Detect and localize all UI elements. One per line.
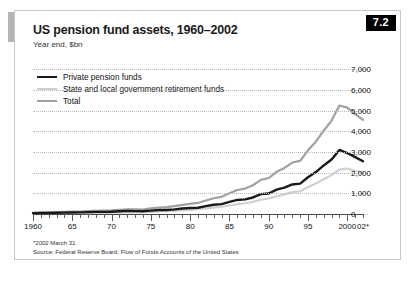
x-axis-label: 95 (304, 222, 313, 231)
y-axis-label: 3,000 (351, 148, 371, 157)
y-axis-label: 1,000 (351, 189, 371, 198)
x-axis-tick (104, 214, 105, 218)
gridline (33, 111, 363, 112)
x-axis-tick (206, 214, 207, 218)
x-axis-tick (182, 214, 183, 218)
x-axis-tick (159, 214, 160, 218)
x-axis-tick (72, 214, 73, 221)
y-axis-label: 7,000 (351, 65, 371, 74)
x-axis-tick (237, 214, 238, 218)
footnote: *2002 March 31 (33, 239, 239, 248)
x-axis-tick (355, 214, 356, 218)
series-lines (33, 59, 363, 214)
x-axis-tick (33, 214, 34, 221)
gridline (33, 131, 363, 132)
x-axis-tick (300, 214, 301, 218)
x-axis-tick (41, 214, 42, 218)
x-axis-tick (222, 214, 223, 218)
x-axis-label: 70 (107, 222, 116, 231)
gridline (33, 173, 363, 174)
x-axis-tick (363, 214, 364, 218)
y-axis-label: 6,000 (351, 86, 371, 95)
x-axis-tick (292, 214, 293, 218)
x-axis-label: 90 (264, 222, 273, 231)
plot-area (33, 59, 363, 214)
x-axis-tick (269, 214, 270, 221)
x-axis-tick (308, 214, 309, 221)
x-axis-label: 65 (68, 222, 77, 231)
x-axis-label: 1960 (24, 222, 42, 231)
gridline (33, 69, 363, 70)
x-axis-label: 85 (225, 222, 234, 231)
x-axis-tick (49, 214, 50, 218)
x-axis-label: 02* (357, 222, 369, 231)
x-axis-tick (316, 214, 317, 218)
x-axis-tick (64, 214, 65, 218)
x-axis-label: 2000 (338, 222, 356, 231)
x-axis-tick (339, 214, 340, 218)
x-axis-tick (198, 214, 199, 218)
x-axis-tick (332, 214, 333, 218)
x-axis-tick (245, 214, 246, 218)
y-axis-label: 2,000 (351, 168, 371, 177)
source-line: Source: Federal Reserve Board, Flow of F… (33, 248, 239, 257)
x-axis-tick (284, 214, 285, 218)
x-axis-label: 80 (186, 222, 195, 231)
x-axis-tick (253, 214, 254, 218)
x-axis-tick (96, 214, 97, 218)
x-axis-tick (347, 214, 348, 221)
figure-number-badge: 7.2 (366, 15, 396, 31)
y-axis-label: 4,000 (351, 127, 371, 136)
x-axis-tick (151, 214, 152, 221)
x-axis-tick (261, 214, 262, 218)
chart-notes: *2002 March 31 Source: Federal Reserve B… (33, 239, 239, 258)
chart-subtitle: Year end, $bn (33, 40, 83, 49)
gridline (33, 90, 363, 91)
x-axis-tick (174, 214, 175, 218)
x-axis-tick (127, 214, 128, 218)
x-axis-tick (143, 214, 144, 218)
x-axis-tick (119, 214, 120, 218)
x-axis-tick (324, 214, 325, 218)
x-axis-tick (135, 214, 136, 218)
y-axis-label: 5,000 (351, 106, 371, 115)
x-axis-tick (277, 214, 278, 218)
x-axis-tick (190, 214, 191, 221)
chart-title: US pension fund assets, 1960–2002 (33, 23, 238, 37)
x-axis-tick (88, 214, 89, 218)
gridline (33, 152, 363, 153)
x-axis-tick (112, 214, 113, 221)
series-line-total (33, 106, 363, 213)
gridline (33, 193, 363, 194)
x-axis-tick (229, 214, 230, 221)
chart-figure: 7.2 US pension fund assets, 1960–2002 Ye… (14, 10, 401, 260)
x-axis-tick (167, 214, 168, 218)
x-axis-tick (214, 214, 215, 218)
x-axis-tick (57, 214, 58, 218)
x-axis-tick (80, 214, 81, 218)
x-axis-label: 75 (146, 222, 155, 231)
